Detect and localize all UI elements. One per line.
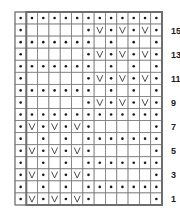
chart-cell <box>26 24 37 36</box>
purl-dot-symbol <box>155 161 158 164</box>
purl-dot-symbol <box>121 17 124 20</box>
purl-dot-symbol <box>76 113 79 116</box>
purl-dot-symbol <box>99 17 102 20</box>
purl-dot-symbol <box>110 113 113 116</box>
purl-dot-symbol <box>19 89 22 92</box>
purl-dot-symbol <box>76 89 79 92</box>
purl-dot-symbol <box>19 149 22 152</box>
purl-dot-symbol <box>65 149 68 152</box>
purl-dot-symbol <box>31 17 34 20</box>
purl-dot-symbol <box>87 137 90 140</box>
chart-cell <box>139 36 150 48</box>
purl-dot-symbol <box>121 161 124 164</box>
row-number-label: 3 <box>171 170 176 180</box>
purl-dot-symbol <box>87 186 90 189</box>
purl-dot-symbol <box>65 89 68 92</box>
purl-dot-symbol <box>132 89 135 92</box>
purl-dot-symbol <box>65 17 68 20</box>
purl-dot-symbol <box>42 125 45 128</box>
purl-dot-symbol <box>155 53 158 56</box>
purl-dot-symbol <box>155 41 158 44</box>
chart-cell <box>60 24 71 36</box>
purl-dot-symbol <box>132 29 135 32</box>
chart-cell <box>105 145 116 157</box>
purl-dot-symbol <box>31 65 34 68</box>
purl-dot-symbol <box>132 186 135 189</box>
purl-dot-symbol <box>19 198 22 201</box>
purl-dot-symbol <box>87 198 90 201</box>
chart-cell <box>139 169 150 181</box>
chart-cell <box>139 121 150 133</box>
purl-dot-symbol <box>155 125 158 128</box>
chart-cell <box>72 48 83 60</box>
purl-dot-symbol <box>65 161 68 164</box>
purl-dot-symbol <box>19 29 22 32</box>
chart-cell <box>139 145 150 157</box>
purl-dot-symbol <box>76 41 79 44</box>
purl-dot-symbol <box>132 65 135 68</box>
purl-dot-symbol <box>155 113 158 116</box>
purl-dot-symbol <box>87 29 90 32</box>
chart-cell <box>94 36 105 48</box>
purl-dot-symbol <box>155 29 158 32</box>
chart-cell <box>38 96 49 108</box>
purl-dot-symbol <box>110 137 113 140</box>
purl-dot-symbol <box>87 174 90 177</box>
chart-cell <box>94 193 105 205</box>
chart-cell <box>117 121 128 133</box>
chart-cell <box>94 121 105 133</box>
purl-dot-symbol <box>19 174 22 177</box>
chart-cell <box>49 96 60 108</box>
chart-cell <box>72 24 83 36</box>
row-number-label: 11 <box>171 74 180 84</box>
chart-cell <box>49 181 60 193</box>
chart-cell <box>128 121 139 133</box>
purl-dot-symbol <box>31 113 34 116</box>
purl-dot-symbol <box>110 101 113 104</box>
purl-dot-symbol <box>19 161 22 164</box>
purl-dot-symbol <box>144 137 147 140</box>
purl-dot-symbol <box>65 198 68 201</box>
chart-cell <box>38 24 49 36</box>
purl-dot-symbol <box>87 41 90 44</box>
row-number-label: 9 <box>171 98 176 108</box>
purl-dot-symbol <box>42 186 45 189</box>
chart-cell <box>60 48 71 60</box>
purl-dot-symbol <box>144 17 147 20</box>
purl-dot-symbol <box>65 186 68 189</box>
chart-cell <box>49 72 60 84</box>
purl-dot-symbol <box>42 198 45 201</box>
purl-dot-symbol <box>155 89 158 92</box>
chart-cell <box>38 48 49 60</box>
chart-cell <box>49 24 60 36</box>
chart-cell <box>139 84 150 96</box>
purl-dot-symbol <box>132 17 135 20</box>
purl-dot-symbol <box>87 89 90 92</box>
row-number-label: 1 <box>171 194 176 204</box>
purl-dot-symbol <box>121 186 124 189</box>
row-number-label: 5 <box>171 146 176 156</box>
purl-dot-symbol <box>53 113 56 116</box>
purl-dot-symbol <box>155 65 158 68</box>
purl-dot-symbol <box>42 89 45 92</box>
purl-dot-symbol <box>87 77 90 80</box>
chart-cell <box>72 72 83 84</box>
chart-cell <box>72 181 83 193</box>
purl-dot-symbol <box>42 161 45 164</box>
chart-cell <box>128 193 139 205</box>
purl-dot-symbol <box>132 161 135 164</box>
chart-cell <box>26 96 37 108</box>
chart-cell <box>49 157 60 169</box>
purl-dot-symbol <box>19 77 22 80</box>
chart-cell <box>94 84 105 96</box>
purl-dot-symbol <box>155 17 158 20</box>
purl-dot-symbol <box>19 65 22 68</box>
purl-dot-symbol <box>19 113 22 116</box>
purl-dot-symbol <box>19 137 22 140</box>
purl-dot-symbol <box>121 113 124 116</box>
chart-cell <box>72 96 83 108</box>
purl-dot-symbol <box>87 125 90 128</box>
purl-dot-symbol <box>144 161 147 164</box>
purl-dot-symbol <box>53 17 56 20</box>
purl-dot-symbol <box>87 149 90 152</box>
